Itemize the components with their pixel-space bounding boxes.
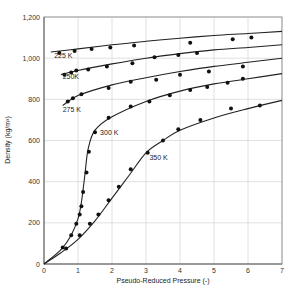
data-marker bbox=[93, 130, 97, 134]
y-tick-label: 800 bbox=[28, 96, 40, 103]
x-tick-label: 6 bbox=[246, 267, 250, 274]
data-marker bbox=[161, 139, 165, 143]
x-tick-label: 7 bbox=[280, 267, 284, 274]
x-tick-label: 2 bbox=[110, 267, 114, 274]
data-marker bbox=[147, 99, 151, 103]
data-marker bbox=[117, 185, 121, 189]
data-marker bbox=[79, 204, 83, 208]
curve-275k bbox=[63, 58, 282, 105]
data-marker bbox=[205, 85, 209, 89]
data-marker bbox=[226, 81, 230, 85]
data-marker bbox=[74, 222, 78, 226]
data-marker bbox=[64, 247, 68, 251]
density-chart: 02004006008001,0001,200 01234567 225 K25… bbox=[0, 0, 298, 300]
data-marker bbox=[81, 190, 85, 194]
data-marker bbox=[178, 73, 182, 77]
x-tick-label: 0 bbox=[42, 267, 46, 274]
data-marker bbox=[195, 51, 199, 55]
y-axis-label: Density (kg/m³) bbox=[4, 116, 12, 163]
y-tick-label: 400 bbox=[28, 178, 40, 185]
data-marker bbox=[153, 55, 157, 59]
series-label: 275 K bbox=[63, 106, 82, 113]
data-marker bbox=[79, 92, 83, 96]
data-marker bbox=[107, 198, 111, 202]
data-marker bbox=[90, 47, 94, 51]
data-marker bbox=[188, 88, 192, 92]
data-marker bbox=[85, 170, 89, 174]
curve-225k bbox=[51, 31, 282, 52]
data-marker bbox=[258, 104, 262, 108]
y-tick-label: 0 bbox=[36, 261, 40, 268]
data-marker bbox=[86, 67, 90, 71]
data-marker bbox=[78, 233, 82, 237]
x-tick-label: 1 bbox=[76, 267, 80, 274]
data-marker bbox=[96, 213, 100, 217]
x-axis-label: Pseudo-Reduced Pressure (-) bbox=[117, 277, 210, 285]
data-marker bbox=[241, 77, 245, 81]
data-marker bbox=[132, 43, 136, 47]
x-tick-labels: 01234567 bbox=[42, 267, 284, 274]
series-label: 350 K bbox=[149, 154, 168, 161]
data-marker bbox=[229, 107, 233, 111]
data-marker bbox=[74, 69, 78, 73]
data-marker bbox=[66, 99, 70, 103]
x-tick-label: 3 bbox=[144, 267, 148, 274]
data-marker bbox=[129, 167, 133, 171]
data-marker bbox=[71, 96, 75, 100]
data-marker bbox=[241, 64, 245, 68]
data-marker bbox=[188, 41, 192, 45]
y-tick-label: 600 bbox=[28, 137, 40, 144]
data-marker bbox=[207, 70, 211, 74]
data-marker bbox=[88, 222, 92, 226]
data-marker bbox=[249, 36, 253, 40]
data-marker bbox=[176, 53, 180, 57]
data-marker bbox=[107, 86, 111, 90]
data-marker bbox=[61, 246, 65, 250]
x-tick-label: 4 bbox=[178, 267, 182, 274]
data-marker bbox=[69, 233, 73, 237]
data-marker bbox=[73, 49, 77, 53]
series-curves bbox=[44, 31, 282, 264]
data-marker bbox=[105, 64, 109, 68]
data-marker bbox=[231, 37, 235, 41]
y-tick-label: 1,000 bbox=[22, 55, 40, 62]
x-tick-label: 5 bbox=[212, 267, 216, 274]
curve-350k bbox=[44, 100, 282, 264]
data-marker bbox=[176, 127, 180, 131]
data-marker bbox=[130, 61, 134, 65]
series-label: 225 K bbox=[54, 52, 73, 59]
series-label: 250K bbox=[63, 73, 80, 80]
data-marker bbox=[129, 80, 133, 84]
data-marker bbox=[198, 118, 202, 122]
data-marker bbox=[108, 45, 112, 49]
y-tick-label: 200 bbox=[28, 219, 40, 226]
y-tick-labels: 02004006008001,0001,200 bbox=[22, 14, 40, 268]
series-label: 300 K bbox=[100, 129, 119, 136]
data-marker bbox=[78, 213, 82, 217]
series-labels: 225 K250K275 K300 K350 K bbox=[54, 52, 168, 161]
data-marker bbox=[107, 116, 111, 120]
data-marker bbox=[129, 105, 133, 109]
data-marker bbox=[154, 78, 158, 82]
data-marker bbox=[87, 150, 91, 154]
data-marker bbox=[168, 93, 172, 97]
curve-250k bbox=[61, 45, 282, 75]
y-tick-label: 1,200 bbox=[22, 14, 40, 21]
